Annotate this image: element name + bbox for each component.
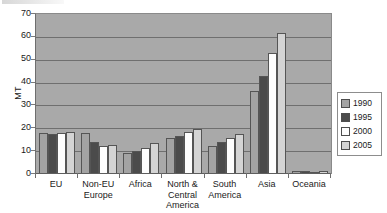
bar-group — [81, 14, 117, 174]
x-tick-mark — [246, 173, 247, 178]
legend-item[interactable]: 1995 — [341, 110, 379, 124]
bar — [141, 148, 150, 174]
y-tick-label: 10 — [9, 146, 31, 155]
bar — [193, 129, 202, 174]
x-category-label-line: Oceania — [288, 179, 330, 190]
bar — [90, 142, 99, 174]
x-axis-line — [35, 173, 331, 174]
bar-group — [250, 14, 286, 174]
bar — [166, 138, 175, 174]
legend-item[interactable]: 2000 — [341, 124, 379, 138]
x-category-label-line: Asia — [246, 179, 288, 190]
bar — [57, 133, 66, 174]
legend-swatch-icon — [341, 127, 350, 136]
x-category-label: SouthAmerica — [204, 179, 246, 200]
legend-item[interactable]: 1990 — [341, 96, 379, 110]
legend-label: 2005 — [353, 141, 372, 150]
y-tick-label: 60 — [9, 31, 31, 40]
bar — [175, 136, 184, 174]
legend-item[interactable]: 2005 — [341, 138, 379, 152]
bar — [250, 91, 259, 174]
x-category-label: Non-EUEurope — [77, 179, 119, 200]
x-category-label: Africa — [119, 179, 161, 190]
x-tick-mark — [204, 173, 205, 178]
plot-area — [35, 13, 332, 174]
bar — [208, 146, 217, 174]
bar — [66, 132, 75, 175]
bar — [99, 146, 108, 174]
bar — [226, 138, 235, 174]
legend-label: 1995 — [353, 113, 372, 122]
x-category-label: North &CentralAmerica — [161, 179, 203, 211]
y-tick-label: 0 — [9, 169, 31, 178]
y-tick-label: 20 — [9, 123, 31, 132]
x-category-label-line: Non-EU — [77, 179, 119, 190]
bar — [108, 145, 117, 174]
x-tick-mark — [77, 173, 78, 178]
legend-swatch-icon — [341, 99, 350, 108]
x-category-label-line: Europe — [77, 190, 119, 201]
bar — [48, 134, 57, 174]
bar — [235, 134, 244, 174]
x-tick-mark — [288, 173, 289, 178]
y-tick-label: 40 — [9, 77, 31, 86]
legend-label: 2000 — [353, 127, 372, 136]
x-tick-mark — [330, 173, 331, 178]
legend-label: 1990 — [353, 99, 372, 108]
y-tick-label: 30 — [9, 100, 31, 109]
bar — [217, 142, 226, 174]
y-tick-label: 70 — [9, 9, 31, 18]
x-category-label-line: South — [204, 179, 246, 190]
legend: 1990199520002005 — [337, 92, 382, 156]
bar — [150, 143, 159, 174]
bar-group — [292, 14, 328, 174]
x-tick-mark — [119, 173, 120, 178]
y-tick-label: 50 — [9, 54, 31, 63]
x-category-label-line: America — [204, 190, 246, 201]
bar — [81, 133, 90, 174]
bar-group — [166, 14, 202, 174]
bar — [259, 76, 268, 174]
x-category-label-line: North & — [161, 179, 203, 190]
legend-swatch-icon — [341, 113, 350, 122]
x-category-label-line: Central — [161, 190, 203, 201]
bar — [132, 151, 141, 174]
y-axis-tick-labels: 706050403020100 — [8, 0, 31, 213]
bar-group — [123, 14, 159, 174]
x-tick-mark — [161, 173, 162, 178]
x-category-label: Oceania — [288, 179, 330, 190]
x-category-label: EU — [35, 179, 77, 190]
bar — [39, 133, 48, 174]
bar — [123, 153, 132, 174]
legend-swatch-icon — [341, 141, 350, 150]
bar — [184, 132, 193, 174]
bar-chart: MT 706050403020100 EUNon-EUEuropeAfricaN… — [0, 0, 387, 213]
bar — [277, 33, 286, 174]
bar-group — [208, 14, 244, 174]
bar — [268, 53, 277, 174]
x-category-label-line: EU — [35, 179, 77, 190]
x-category-label: Asia — [246, 179, 288, 190]
x-category-label-line: America — [161, 200, 203, 211]
x-category-label-line: Africa — [119, 179, 161, 190]
x-tick-mark — [35, 173, 36, 178]
bar-group — [39, 14, 75, 174]
